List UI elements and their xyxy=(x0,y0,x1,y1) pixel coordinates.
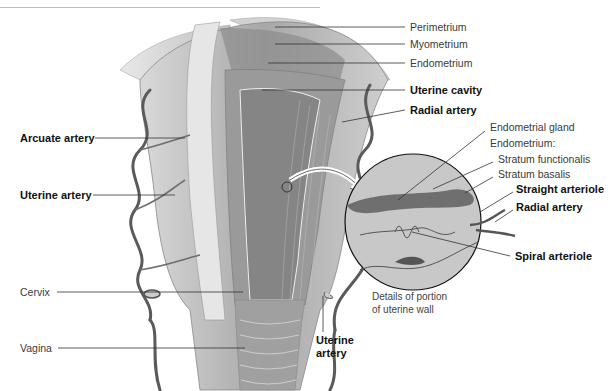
label-perimetrium: Perimetrium xyxy=(410,21,467,33)
label-spiral-arteriole: Spiral arteriole xyxy=(515,250,592,262)
label-straight-arteriole: Straight arteriole xyxy=(516,183,604,195)
label-arcuate-artery: Arcuate artery xyxy=(20,132,95,144)
label-endometrium-heading: Endometrium: xyxy=(490,137,555,149)
label-uterine-artery-left: Uterine artery xyxy=(20,189,92,201)
label-endometrial-gland: Endometrial gland xyxy=(490,121,575,133)
label-stratum-basalis: Stratum basalis xyxy=(498,168,570,180)
label-endometrium: Endometrium xyxy=(410,57,472,69)
uterus-illustration xyxy=(0,0,614,391)
label-uterine-artery-line2: artery xyxy=(316,347,354,360)
detail-circle xyxy=(345,154,481,290)
label-radial-artery-detail: Radial artery xyxy=(516,201,583,213)
label-cervix: Cervix xyxy=(20,286,50,298)
label-radial-artery: Radial artery xyxy=(410,104,477,116)
label-stratum-functionalis: Stratum functionalis xyxy=(498,153,590,165)
caption-line-1: Details of portion xyxy=(372,290,447,303)
label-uterine-artery-right: Uterine artery xyxy=(316,334,354,360)
label-uterine-artery-line1: Uterine xyxy=(316,334,354,347)
label-vagina: Vagina xyxy=(20,342,52,354)
label-myometrium: Myometrium xyxy=(410,38,468,50)
detail-caption: Details of portion of uterine wall xyxy=(372,290,447,316)
label-uterine-cavity: Uterine cavity xyxy=(410,84,482,96)
caption-line-2: of uterine wall xyxy=(372,303,447,316)
